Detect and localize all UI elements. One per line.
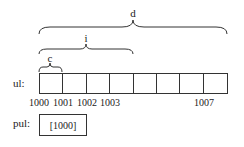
brace-i [39,44,133,54]
array-cell [87,74,110,93]
brace-c [39,63,62,72]
array-ul [39,73,228,94]
array-cell [40,74,63,93]
array-cell [204,74,227,93]
brace-label-c: c [48,53,53,64]
address-label: 1001 [53,98,73,108]
array-cell [63,74,86,93]
pointer-label: pul: [13,118,30,129]
address-label: 1003 [100,98,120,108]
array-cell [180,74,203,93]
brace-label-i: i [84,33,87,44]
array-label: ul: [13,78,25,89]
pointer-value: [1000] [50,120,77,131]
pointer-box: [1000] [39,114,87,136]
array-cell [110,74,133,93]
address-label: 1000 [29,98,49,108]
array-cell [134,74,157,93]
address-label: 1007 [194,98,214,108]
brace-d [39,20,227,34]
brace-label-d: d [130,8,136,19]
array-cell [157,74,180,93]
address-label: 1002 [77,98,97,108]
